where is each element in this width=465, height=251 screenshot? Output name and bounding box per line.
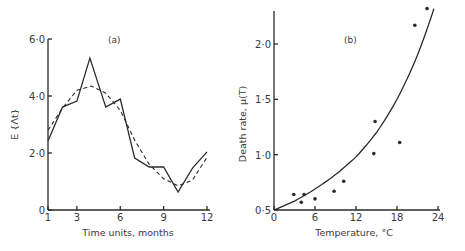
y-tick-label: 2·0 [29, 148, 45, 159]
panel-b-x-axis-label: Temperature, °C [314, 227, 393, 238]
data-point [413, 23, 417, 27]
y-tick-label: 0 [39, 205, 45, 216]
fitted-series-dashed-line [48, 86, 207, 186]
y-tick-label: 6·0 [29, 34, 45, 45]
y-tick-label: 2·0 [255, 39, 271, 50]
data-point [292, 193, 296, 197]
data-point [425, 7, 429, 11]
panel-b-axes [274, 11, 440, 210]
panel-a-time-series: 13691202·04·06·0 (a) Time units, months … [9, 34, 213, 238]
panel-b-tick-labels: 061218240·51·01·52·0 [255, 39, 444, 223]
panel-b-y-axis-label: Death rate, μ(T) [237, 86, 248, 162]
y-tick-label: 0·5 [255, 205, 271, 216]
x-tick-label: 18 [391, 212, 404, 223]
panel-a-tick-labels: 13691202·04·06·0 [29, 34, 213, 223]
x-tick-label: 6 [117, 212, 123, 223]
figure: 13691202·04·06·0 (a) Time units, months … [0, 0, 465, 251]
panel-a-x-axis-label: Time units, months [81, 227, 173, 238]
panel-a-y-axis-label: E {Λt} [9, 108, 20, 139]
panel-a-axes [48, 39, 210, 210]
data-point [302, 193, 306, 197]
x-tick-label: 9 [160, 212, 166, 223]
y-tick-label: 4·0 [29, 91, 45, 102]
data-point [313, 197, 317, 201]
x-tick-label: 12 [350, 212, 363, 223]
panel-a-label: (a) [108, 35, 121, 45]
x-tick-label: 24 [432, 212, 445, 223]
data-point [332, 189, 336, 193]
x-tick-label: 1 [45, 212, 51, 223]
x-tick-label: 6 [312, 212, 318, 223]
y-tick-label: 1·5 [255, 94, 271, 105]
x-tick-label: 0 [271, 212, 277, 223]
data-point [398, 141, 402, 145]
x-tick-label: 12 [201, 212, 214, 223]
y-tick-label: 1·0 [255, 150, 271, 161]
panel-b-label: (b) [344, 35, 357, 45]
observed-scatter-points [292, 7, 429, 204]
data-point [372, 152, 376, 156]
data-point [373, 120, 377, 124]
data-point [300, 201, 304, 205]
x-tick-label: 3 [74, 212, 80, 223]
panel-b-death-rate: 061218240·51·01·52·0 (b) Temperature, °C… [237, 7, 444, 238]
data-point [342, 179, 346, 183]
